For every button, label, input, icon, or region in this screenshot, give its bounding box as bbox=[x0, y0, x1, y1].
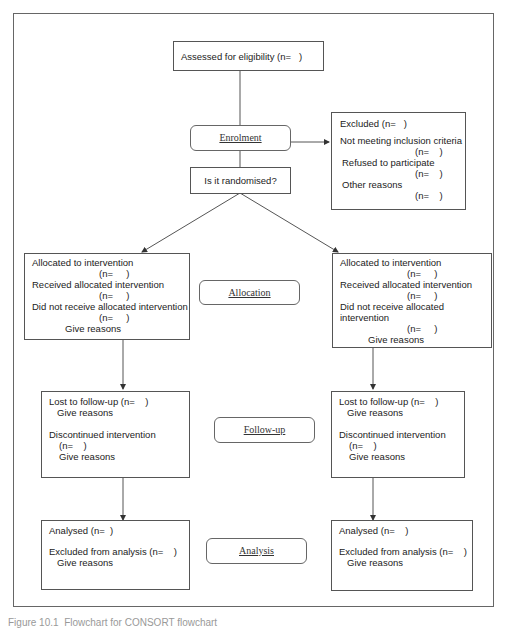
box-line: (n= ) bbox=[340, 323, 491, 334]
box-line: Excluded from analysis (n= ) bbox=[339, 546, 472, 557]
excluded-line: Excluded (n= ) bbox=[340, 118, 465, 129]
box-line: Give reasons bbox=[339, 557, 472, 568]
box-line: Analysed (n= ) bbox=[339, 525, 472, 536]
box-line: Discontinued intervention bbox=[49, 429, 189, 440]
box-line: (n= ) bbox=[49, 440, 189, 451]
analysis-right-box: Analysed (n= ) Excluded from analysis (n… bbox=[331, 520, 473, 591]
box-line: Did not receive allocated intervention bbox=[32, 301, 189, 312]
box-line: Give reasons bbox=[49, 451, 189, 462]
box-line: (n= ) bbox=[339, 440, 464, 451]
stage-label: Allocation bbox=[228, 287, 270, 298]
excluded-line: (n= ) bbox=[340, 190, 465, 201]
box-line: Give reasons bbox=[340, 334, 491, 345]
box-line: Lost to follow-up (n= ) bbox=[49, 396, 189, 407]
assessed-eligibility-box: Assessed for eligibility (n= ) bbox=[173, 41, 324, 71]
box-line: Allocated to intervention bbox=[32, 257, 189, 268]
box-line: Did not receive allocated bbox=[340, 301, 491, 312]
randomised-box: Is it randomised? bbox=[190, 167, 291, 194]
box-line: Received allocated intervention bbox=[32, 279, 189, 290]
box-line: Give reasons bbox=[49, 407, 189, 418]
followup-right-box: Lost to follow-up (n= ) Give reasons Dis… bbox=[331, 391, 465, 478]
randomised-label: Is it randomised? bbox=[204, 175, 276, 186]
box-line: (n= ) bbox=[32, 290, 189, 301]
box-line: Excluded from analysis (n= ) bbox=[49, 546, 189, 557]
box-line: Give reasons bbox=[339, 451, 464, 462]
box-line: Give reasons bbox=[49, 557, 189, 568]
box-line: Give reasons bbox=[339, 407, 464, 418]
box-line: Received allocated intervention bbox=[340, 279, 491, 290]
stage-enrolment: Enrolment bbox=[190, 125, 291, 151]
box-line: Discontinued intervention bbox=[339, 429, 464, 440]
analysis-left-box: Analysed (n= ) Excluded from analysis (n… bbox=[41, 520, 190, 590]
box-line: (n= ) bbox=[340, 268, 491, 279]
excluded-box: Excluded (n= ) Not meeting inclusion cri… bbox=[331, 112, 466, 210]
box-line: Analysed (n= ) bbox=[49, 525, 189, 536]
stage-analysis: Analysis bbox=[206, 538, 307, 564]
assessed-label: Assessed for eligibility (n= ) bbox=[181, 51, 323, 62]
stage-followup: Follow-up bbox=[214, 417, 315, 443]
excluded-line: (n= ) bbox=[340, 146, 465, 157]
excluded-line: (n= ) bbox=[340, 168, 465, 179]
followup-left-box: Lost to follow-up (n= ) Give reasons Dis… bbox=[41, 391, 190, 478]
excluded-line: Refused to participate bbox=[340, 157, 465, 168]
stage-label: Follow-up bbox=[244, 424, 286, 435]
box-line: (n= ) bbox=[32, 312, 189, 323]
box-line: Give reasons bbox=[32, 323, 189, 334]
stage-allocation: Allocation bbox=[199, 280, 300, 305]
stage-label: Enrolment bbox=[219, 132, 261, 143]
box-line: Lost to follow-up (n= ) bbox=[339, 396, 464, 407]
allocation-left-box: Allocated to intervention (n= ) Received… bbox=[24, 253, 190, 340]
figure-caption: Figure 10.1 Flowchart for CONSORT flowch… bbox=[8, 617, 217, 628]
excluded-line: Other reasons bbox=[340, 179, 465, 190]
stage-label: Analysis bbox=[239, 545, 274, 556]
allocation-right-box: Allocated to intervention (n= ) Received… bbox=[332, 253, 492, 348]
excluded-line: Not meeting inclusion criteria bbox=[340, 135, 465, 146]
box-line: intervention bbox=[340, 312, 491, 323]
box-line: (n= ) bbox=[340, 290, 491, 301]
box-line: (n= ) bbox=[32, 268, 189, 279]
box-line: Allocated to intervention bbox=[340, 257, 491, 268]
